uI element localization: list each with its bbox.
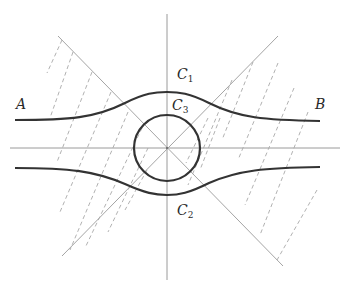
dashed-hatching-right <box>186 62 317 260</box>
label-A-text: A <box>16 96 26 112</box>
label-C3-sub: 3 <box>183 105 189 115</box>
label-C3: C3 <box>172 98 188 115</box>
diagonal-ne-sw <box>62 36 278 256</box>
label-B-text: B <box>315 96 325 112</box>
diagram-canvas: A B C1 C3 C2 <box>0 0 349 289</box>
label-C1: C1 <box>177 67 193 84</box>
center-point <box>166 147 168 149</box>
diagram-svg <box>0 0 349 289</box>
label-C1-sub: 1 <box>188 74 194 84</box>
label-C2: C2 <box>177 203 193 220</box>
label-B: B <box>315 97 325 111</box>
label-C2-main: C <box>177 202 188 218</box>
label-C1-main: C <box>177 66 188 82</box>
label-C3-main: C <box>172 97 183 113</box>
label-C2-sub: 2 <box>188 210 194 220</box>
dashed-hatching-left <box>47 40 148 250</box>
label-A: A <box>16 97 26 111</box>
